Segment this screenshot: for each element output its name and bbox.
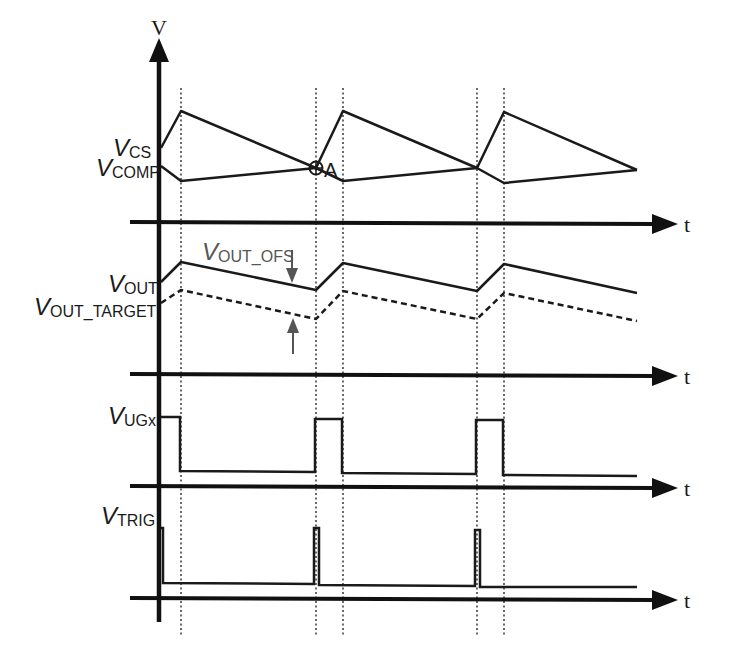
point-a-label: A [324,159,338,181]
time-axis-4 [130,598,655,600]
arrowhead-icon [652,214,678,234]
vugx-waveform [161,417,637,476]
vout-target-waveform [161,290,637,321]
arrowhead-icon [652,478,678,498]
t-label-2: t [684,364,690,389]
arrowhead-icon [652,366,678,386]
t-label-3: t [684,476,690,501]
vtrig-label: VTRIG [101,502,155,529]
vout-label: VOUT [108,270,158,297]
vcomp-waveform [161,166,637,183]
vout-target-label: VOUT_TARGET [34,293,157,321]
vtrig-waveform [161,528,637,587]
time-axis-2 [130,374,655,376]
vout-waveform [161,262,637,293]
v-axis-label: V [151,15,167,40]
arrowhead-icon [652,590,678,610]
vcs-label: VCS [113,134,151,161]
vugx-label: VUGx [108,402,156,429]
time-axis-1 [130,222,655,224]
t-label-4: t [684,588,690,613]
time-axis-labels: t t t t [684,212,690,613]
t-label-1: t [684,212,690,237]
time-axis-arrowheads [652,214,678,610]
vout-ofs-label: VOUT_OFS [202,238,294,266]
down-arrow-icon [286,268,298,283]
point-a-marker: A [310,159,339,181]
timing-diagram: V t t t t A VCS VCOMP [0,0,734,664]
v-axis-arrowhead-icon [149,38,169,62]
up-arrow-icon [287,318,299,333]
offset-arrows [286,250,299,354]
time-axis-3 [130,486,655,488]
vcs-waveform [161,111,637,170]
